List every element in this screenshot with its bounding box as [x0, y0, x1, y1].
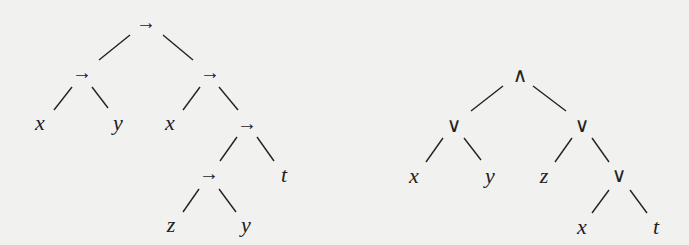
tree-edge — [219, 189, 236, 212]
variable-node-t: t — [281, 164, 287, 186]
variable-node-x: x — [35, 112, 45, 134]
and-or-tree-edges — [426, 86, 647, 213]
tree-edge — [630, 190, 647, 213]
variable-node-x: x — [577, 216, 587, 238]
and-operator: ∧ — [513, 65, 528, 85]
tree-edge — [99, 35, 130, 60]
tree-edge — [592, 190, 609, 213]
variable-node-y: y — [485, 165, 495, 187]
or-operator: ∨ — [575, 115, 590, 135]
variable-node-x: x — [165, 112, 175, 134]
variable-node-t: t — [653, 216, 659, 238]
tree-edge — [54, 87, 72, 110]
tree-edge — [183, 189, 199, 212]
tree-edge — [92, 87, 108, 108]
variable-node-z: z — [167, 214, 176, 236]
tree-edge — [592, 138, 609, 162]
tree-edge — [533, 86, 566, 111]
tree-edge — [471, 86, 503, 111]
variable-node-z: z — [540, 165, 549, 187]
tree-edge — [257, 137, 274, 161]
tree-edge — [163, 35, 193, 60]
variable-node-y: y — [113, 112, 123, 134]
tree-edge — [183, 87, 200, 110]
or-operator: ∨ — [447, 115, 462, 135]
tree-edge — [464, 138, 481, 160]
variable-node-y: y — [241, 214, 251, 236]
tree-edge — [219, 87, 238, 110]
implies-operator: → — [136, 12, 156, 32]
implies-operator: → — [72, 62, 92, 82]
diagram-canvas: →→→xyx→→tzy∧∨∨xyz∨xt — [0, 0, 689, 245]
implies-operator: → — [200, 62, 220, 82]
variable-node-x: x — [409, 165, 419, 187]
tree-edge — [220, 137, 237, 161]
implies-operator: → — [199, 163, 219, 183]
tree-edge — [555, 138, 572, 162]
tree-edge — [426, 138, 443, 162]
implies-operator: → — [237, 113, 257, 133]
or-operator: ∨ — [612, 165, 627, 185]
